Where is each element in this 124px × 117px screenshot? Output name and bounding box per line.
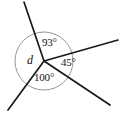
ray-down-left: [8, 61, 44, 110]
angle-label-93: 93°: [42, 37, 57, 48]
vertex-angle-label-d: d: [27, 54, 33, 66]
angle-diagram: d 93° 45° 100°: [0, 0, 124, 117]
ray-down-right: [44, 61, 110, 105]
angle-label-45: 45°: [61, 57, 76, 68]
angle-label-100: 100°: [34, 72, 54, 83]
